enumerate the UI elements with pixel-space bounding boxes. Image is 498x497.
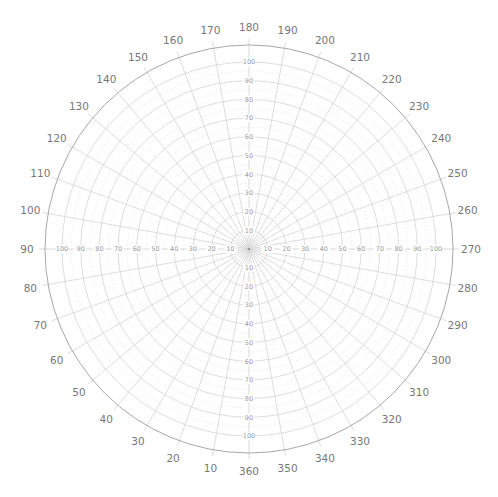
radial-label-right-90: 90 xyxy=(413,245,421,253)
angle-label-150: 150 xyxy=(128,51,148,63)
radial-label-right-10: 10 xyxy=(264,245,272,253)
radial-label-left-50: 50 xyxy=(151,245,159,253)
angle-label-120: 120 xyxy=(47,132,67,144)
radial-label-right-70: 70 xyxy=(376,245,384,253)
angle-label-360: 360 xyxy=(239,465,259,477)
radial-label-down-60: 60 xyxy=(245,358,253,366)
angle-label-300: 300 xyxy=(431,354,451,366)
angle-label-80: 80 xyxy=(24,282,37,294)
radial-label-up-40: 40 xyxy=(245,171,253,179)
radial-label-left-90: 90 xyxy=(77,245,85,253)
angle-label-140: 140 xyxy=(96,73,116,85)
angle-label-40: 40 xyxy=(100,413,113,425)
radial-label-down-50: 50 xyxy=(245,339,253,347)
spoke-320 xyxy=(250,251,384,410)
angle-label-280: 280 xyxy=(458,282,478,294)
radial-label-up-90: 90 xyxy=(245,77,253,85)
radial-label-right-30: 30 xyxy=(301,245,309,253)
angle-label-250: 250 xyxy=(448,167,468,179)
angle-label-270: 270 xyxy=(461,243,481,255)
radial-label-right-100: 100 xyxy=(430,245,442,253)
angle-label-70: 70 xyxy=(34,319,47,331)
radial-label-left-10: 10 xyxy=(226,245,234,253)
radial-label-left-40: 40 xyxy=(170,245,178,253)
angle-label-340: 340 xyxy=(315,452,335,464)
angle-label-290: 290 xyxy=(448,319,468,331)
radial-label-left-100: 100 xyxy=(56,245,68,253)
radial-label-left-70: 70 xyxy=(114,245,122,253)
angle-label-350: 350 xyxy=(278,462,298,474)
angle-label-160: 160 xyxy=(163,34,183,46)
radial-label-up-80: 80 xyxy=(245,96,253,104)
radial-label-left-80: 80 xyxy=(95,245,103,253)
radial-label-up-30: 30 xyxy=(245,189,253,197)
angle-label-130: 130 xyxy=(69,100,89,112)
center-point xyxy=(247,247,250,250)
radial-label-down-80: 80 xyxy=(245,395,253,403)
angle-label-210: 210 xyxy=(350,51,370,63)
angle-label-30: 30 xyxy=(131,435,144,447)
radial-label-down-40: 40 xyxy=(245,320,253,328)
angle-label-110: 110 xyxy=(30,167,50,179)
polar-grid-chart: 1020304050607080901001020304050607080901… xyxy=(0,0,498,497)
radial-label-up-100: 100 xyxy=(243,58,255,66)
angle-label-20: 20 xyxy=(166,452,179,464)
radial-label-right-80: 80 xyxy=(394,245,402,253)
angle-label-50: 50 xyxy=(72,386,85,398)
spoke-50 xyxy=(88,250,247,384)
radial-label-down-20: 20 xyxy=(245,283,253,291)
angle-label-90: 90 xyxy=(20,243,33,255)
angle-label-240: 240 xyxy=(431,132,451,144)
angle-label-330: 330 xyxy=(350,435,370,447)
angle-label-180: 180 xyxy=(239,21,259,33)
radial-label-right-40: 40 xyxy=(320,245,328,253)
radial-label-left-60: 60 xyxy=(133,245,141,253)
radial-label-up-70: 70 xyxy=(245,114,253,122)
angle-label-230: 230 xyxy=(409,100,429,112)
radial-label-down-100: 100 xyxy=(243,432,255,440)
angle-label-310: 310 xyxy=(409,386,429,398)
radial-label-down-30: 30 xyxy=(245,301,253,309)
radial-label-up-10: 10 xyxy=(245,227,253,235)
spoke-140 xyxy=(114,88,248,247)
radial-label-right-60: 60 xyxy=(357,245,365,253)
angle-label-170: 170 xyxy=(200,24,220,36)
angle-label-60: 60 xyxy=(50,354,63,366)
angle-label-260: 260 xyxy=(458,204,478,216)
radial-label-down-70: 70 xyxy=(245,376,253,384)
radial-label-up-60: 60 xyxy=(245,133,253,141)
radial-label-up-20: 20 xyxy=(245,208,253,216)
radial-label-up-50: 50 xyxy=(245,152,253,160)
angle-label-320: 320 xyxy=(382,413,402,425)
angle-label-10: 10 xyxy=(204,462,217,474)
radial-label-right-20: 20 xyxy=(282,245,290,253)
angle-label-190: 190 xyxy=(278,24,298,36)
angle-label-220: 220 xyxy=(382,73,402,85)
radial-label-down-90: 90 xyxy=(245,414,253,422)
radial-label-left-20: 20 xyxy=(207,245,215,253)
angle-label-100: 100 xyxy=(20,204,40,216)
radial-label-left-30: 30 xyxy=(189,245,197,253)
angle-label-200: 200 xyxy=(315,34,335,46)
radial-label-down-10: 10 xyxy=(245,264,253,272)
radial-label-right-50: 50 xyxy=(338,245,346,253)
spoke-230 xyxy=(251,114,410,248)
